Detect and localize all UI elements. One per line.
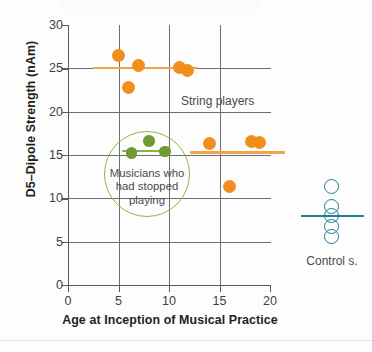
y-tick-5 (62, 242, 69, 243)
bottom-divider (0, 340, 372, 341)
y-tick-label-0: 0 (23, 279, 63, 292)
data-point-string-players[interactable] (122, 81, 135, 94)
data-point-stopped-musicians[interactable] (143, 135, 155, 147)
y-tick-25 (62, 68, 69, 69)
mean-line-string-players-late (190, 151, 285, 154)
data-point-string-players[interactable] (181, 64, 194, 77)
plot-area: 0 5 10 15 20 25 30 0 5 10 15 20 (0, 0, 372, 352)
annotation-control-subjects: Control s. (296, 255, 368, 268)
annotation-stopped-line-3: playing (97, 194, 197, 207)
x-tick-10 (169, 285, 170, 292)
scatter-plot-figure: 0 5 10 15 20 25 30 0 5 10 15 20 (0, 0, 372, 352)
y-axis-title: D5–Dipole Strength (nAm) (24, 4, 38, 234)
y-tick-20 (62, 112, 69, 113)
y-tick-10 (62, 198, 69, 199)
x-tick-label-15: 15 (205, 295, 235, 308)
annotation-string-players: String players (181, 95, 277, 108)
annotation-stopped-musicians: Musicians who had stopped playing (97, 167, 197, 207)
x-tick-15 (220, 285, 221, 292)
x-tick-20 (270, 285, 271, 292)
data-point-string-players[interactable] (203, 137, 216, 150)
data-point-string-players[interactable] (253, 136, 266, 149)
y-tick-15 (62, 155, 69, 156)
y-tick-30 (62, 25, 69, 26)
x-tick-label-0: 0 (53, 295, 83, 308)
data-point-stopped-musicians[interactable] (159, 146, 171, 158)
y-tick-label-5: 5 (23, 236, 63, 249)
annotation-stopped-line-2: had stopped (97, 180, 197, 193)
data-point-string-players[interactable] (223, 180, 236, 193)
x-tick-label-10: 10 (154, 295, 184, 308)
x-tick-label-20: 20 (255, 295, 285, 308)
data-point-control[interactable] (324, 179, 339, 194)
x-tick-0 (68, 285, 69, 292)
x-axis-title: Age at Inception of Musical Practice (42, 313, 298, 327)
data-point-control[interactable] (324, 229, 339, 244)
x-tick-label-5: 5 (104, 295, 134, 308)
x-tick-5 (119, 285, 120, 292)
data-point-string-players[interactable] (132, 59, 145, 72)
gridline-x-15 (220, 25, 221, 286)
data-point-string-players[interactable] (112, 49, 125, 62)
annotation-stopped-line-1: Musicians who (97, 167, 197, 180)
